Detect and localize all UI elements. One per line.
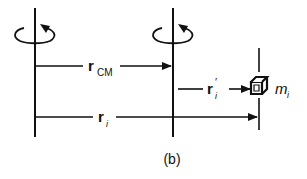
vector-r-i-prime: r ′ i bbox=[178, 76, 250, 101]
r-i-prime-label: r bbox=[207, 80, 213, 97]
rotation-diagram: r CM r ′ i r i m i (b) bbox=[0, 0, 307, 179]
mass-cube-icon bbox=[251, 77, 267, 94]
figure-caption: (b) bbox=[163, 151, 180, 167]
r-i-prime-subscript: i bbox=[215, 91, 218, 101]
r-i-prime-mark: ′ bbox=[215, 76, 217, 88]
mass-subscript: i bbox=[287, 90, 290, 100]
vector-r-cm: r CM bbox=[35, 57, 171, 78]
mass-label: m bbox=[275, 80, 288, 97]
r-cm-label: r bbox=[88, 57, 94, 74]
r-i-label: r bbox=[98, 108, 104, 125]
vector-r-i: r i bbox=[35, 108, 257, 129]
r-i-subscript: i bbox=[106, 119, 109, 129]
r-cm-subscript: CM bbox=[97, 67, 113, 78]
